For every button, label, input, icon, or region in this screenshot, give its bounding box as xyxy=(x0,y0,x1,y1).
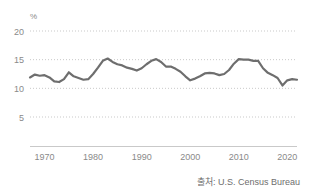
x-axis-tick-label: 1970 xyxy=(35,152,55,162)
y-axis-unit-label: % xyxy=(30,12,37,21)
x-axis-tick-label: 1980 xyxy=(83,152,103,162)
y-axis-tick-label: 5 xyxy=(19,113,24,123)
x-axis-tick-label: 1990 xyxy=(132,152,152,162)
y-axis-tick-labels: 5101520 xyxy=(14,27,24,123)
y-axis-tick-label: 20 xyxy=(14,27,24,37)
x-axis-tick-label: 2000 xyxy=(180,152,200,162)
x-axis-tick-labels: 197019801990200020102020 xyxy=(35,152,298,162)
y-axis-tick-label: 15 xyxy=(14,55,24,65)
chart-canvas: 5101520 % 197019801990200020102020 xyxy=(0,0,312,194)
poverty-rate-series-line xyxy=(30,59,297,86)
source-note: 출처: U.S. Census Bureau xyxy=(197,175,300,188)
x-axis-tick-label: 2020 xyxy=(277,152,297,162)
y-axis-tick-label: 10 xyxy=(14,84,24,94)
x-axis-tick-label: 2010 xyxy=(229,152,249,162)
poverty-rate-line-chart: 5101520 % 197019801990200020102020 출처: U… xyxy=(0,0,312,194)
